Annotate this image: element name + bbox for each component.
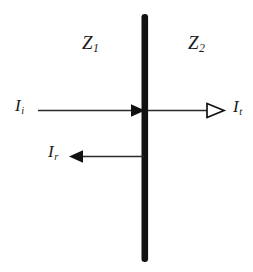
incident-subscript: i: [21, 105, 24, 116]
transmitted-symbol: I: [233, 97, 239, 116]
medium-z1-symbol: Z: [82, 32, 93, 53]
transmitted-arrowhead-hollow: [207, 104, 224, 118]
reflected-wave-label: Ir: [48, 143, 58, 162]
medium-z2-subscript: 2: [199, 42, 205, 55]
reflected-subscript: r: [54, 151, 59, 162]
medium-label-z1: Z1: [82, 33, 99, 55]
reflected-symbol: I: [48, 142, 54, 161]
interface-boundary: [142, 14, 149, 262]
incident-ray: [38, 104, 145, 117]
transmitted-wave-label: It: [233, 98, 242, 117]
medium-z2-symbol: Z: [188, 32, 199, 53]
medium-z1-subscript: 1: [93, 42, 99, 55]
reflected-arrowhead-solid: [69, 150, 83, 163]
transmitted-subscript: t: [239, 106, 242, 117]
wave-interface-diagram: Z1 Z2 Ii It Ir: [0, 0, 253, 272]
incident-wave-label: Ii: [15, 97, 24, 116]
transmitted-ray: [148, 104, 224, 118]
reflected-ray: [69, 150, 144, 163]
incident-symbol: I: [15, 96, 21, 115]
diagram-canvas: [0, 0, 253, 272]
medium-label-z2: Z2: [188, 33, 205, 55]
